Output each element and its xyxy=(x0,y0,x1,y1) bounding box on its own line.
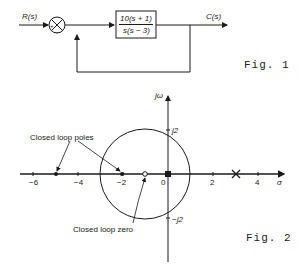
zero-pointer xyxy=(133,178,145,223)
root-locus-plot xyxy=(20,96,284,262)
tf-denominator: s(s − 3) xyxy=(123,26,150,35)
tf-numerator: 10(s + 1) xyxy=(120,14,152,23)
closed-loop-pole xyxy=(54,172,58,176)
tick-neg2: −2 xyxy=(117,178,127,187)
tick-0: 0 xyxy=(161,178,166,187)
closed-loop-pole xyxy=(120,172,124,176)
sigma-label: σ xyxy=(277,178,283,187)
zero-annotation: Closed loop zero xyxy=(73,225,134,234)
pole-at-origin xyxy=(165,171,171,177)
input-label: R(s) xyxy=(22,12,37,21)
poles-pointer-right xyxy=(78,141,120,171)
tick-neg-j2: −j2 xyxy=(172,215,183,224)
fig1-caption: Fig. 1 xyxy=(244,59,290,71)
fig2-caption: Fig. 2 xyxy=(246,232,292,244)
tick-neg6: −6 xyxy=(29,178,39,187)
tick-2: 2 xyxy=(210,178,215,187)
tick-j2: j2 xyxy=(171,126,179,135)
tick-neg4: −4 xyxy=(74,178,84,187)
plus-sign: + xyxy=(50,23,54,29)
jw-label: jω xyxy=(154,91,163,100)
poles-annotation: Closed loop poles xyxy=(30,133,94,142)
poles-pointer-left xyxy=(57,141,70,171)
closed-loop-zero xyxy=(143,172,148,177)
tick-4: 4 xyxy=(255,178,260,187)
figure-canvas: R(s) + − 10(s + 1) s(s − 3) C(s) Fig. 1 … xyxy=(0,0,299,267)
minus-sign: − xyxy=(55,29,59,35)
output-label: C(s) xyxy=(206,12,221,21)
